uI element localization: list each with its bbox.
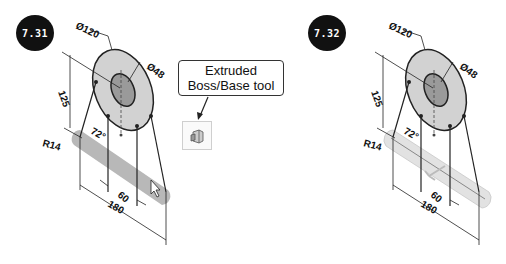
drawing-7-32: Ø120 Ø48 125 72° R14 60 180 (253, 0, 506, 264)
drawing-7-31: Ø120 Ø48 125 72° R14 60 180 (0, 0, 253, 264)
extruded-boss-base-button[interactable] (182, 121, 212, 150)
callout-line-1: Extruded (205, 63, 257, 78)
dim-outer-diameter: Ø120 (387, 20, 414, 40)
dim-outer-diameter: Ø120 (74, 20, 101, 40)
dim-radius: R14 (41, 137, 62, 152)
figure-7-31: 7.31 Ø120 Ø48 (0, 0, 253, 264)
dim-radius: R14 (362, 137, 383, 152)
extruded-boss-base-icon (189, 128, 205, 144)
figure-7-32: 7.32 Ø120 Ø48 125 72° R14 60 180 (253, 0, 506, 264)
